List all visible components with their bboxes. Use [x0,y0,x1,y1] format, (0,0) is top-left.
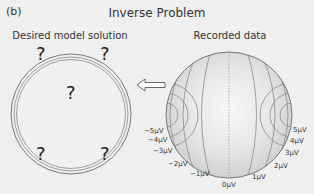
voltage-label: −2μV [168,160,188,168]
voltage-label: −1μV [190,170,210,178]
arrow-left-icon [137,79,165,91]
voltage-label: 5μV [293,126,307,134]
voltage-label: 1μV [252,173,266,181]
voltage-label: −4μV [148,136,168,144]
unknown-marker: ? [100,43,110,64]
diagram-canvas: ? ? ? ? ? −5μV [0,0,314,194]
voltage-label: 4μV [290,137,304,145]
unknown-marker: ? [36,43,46,64]
voltage-label: −3μV [153,147,173,155]
model-head: ? ? ? ? ? [11,43,131,174]
unknown-marker: ? [36,143,46,164]
unknown-marker: ? [100,143,110,164]
voltage-label: 0μV [222,181,236,189]
voltage-label: 3μV [285,149,299,157]
voltage-label: −5μV [144,127,164,135]
unknown-marker: ? [66,82,76,103]
voltage-label: 2μV [274,162,288,170]
recorded-data-head: −5μV −4μV −3μV −2μV −1μV 0μV 1μV 2μV 3μV… [134,50,314,189]
